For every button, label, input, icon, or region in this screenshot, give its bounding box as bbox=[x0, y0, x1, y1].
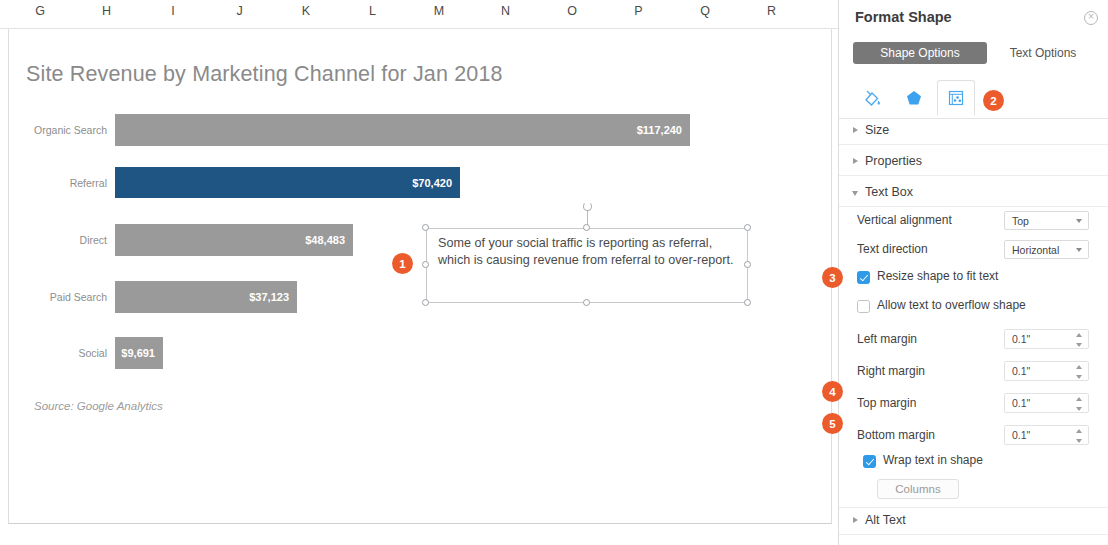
callout-badge-5: 5 bbox=[822, 413, 843, 434]
column-header-r[interactable]: R bbox=[752, 4, 792, 18]
resize-handle-ne[interactable] bbox=[744, 224, 751, 231]
left-margin-value: 0.1" bbox=[1012, 333, 1030, 345]
column-header-g[interactable]: G bbox=[20, 4, 60, 18]
bottom-margin-stepper[interactable]: 0.1" bbox=[1004, 425, 1089, 445]
right-margin-stepper[interactable]: 0.1" bbox=[1004, 361, 1089, 381]
section-text-box[interactable]: Text Box bbox=[839, 180, 1108, 207]
resize-handle-se[interactable] bbox=[744, 299, 751, 306]
resize-shape-checkbox[interactable] bbox=[857, 271, 870, 284]
callout-badge-4: 4 bbox=[822, 381, 843, 402]
annotation-textbox[interactable]: Some of your social traffic is reporting… bbox=[426, 228, 748, 303]
column-header-h[interactable]: H bbox=[87, 4, 127, 18]
spreadsheet-area: GHIJKLMNOPQR Site Revenue by Marketing C… bbox=[0, 0, 838, 545]
column-header-q[interactable]: Q bbox=[685, 4, 725, 18]
chevron-down-icon bbox=[852, 191, 858, 199]
allow-overflow-checkbox[interactable] bbox=[857, 300, 870, 313]
right-margin-value: 0.1" bbox=[1012, 365, 1030, 377]
resize-handle-nw[interactable] bbox=[422, 224, 429, 231]
section-size[interactable]: Size bbox=[839, 118, 1108, 145]
stepper-arrows[interactable] bbox=[1076, 332, 1083, 348]
panel-title: Format Shape bbox=[855, 9, 952, 25]
columns-button-label: Columns bbox=[878, 483, 958, 495]
text-direction-select[interactable]: Horizontal bbox=[1004, 240, 1089, 259]
chevron-right-icon bbox=[853, 517, 858, 523]
chevron-right-icon bbox=[853, 158, 858, 164]
stepper-arrows[interactable] bbox=[1076, 364, 1083, 380]
wrap-text-label: Wrap text in shape bbox=[883, 453, 983, 467]
panel-icon-tab-row bbox=[839, 78, 1108, 119]
callout-badge-2: 2 bbox=[983, 90, 1004, 111]
column-header-k[interactable]: K bbox=[286, 4, 326, 18]
resize-shape-label: Resize shape to fit text bbox=[877, 269, 998, 283]
wrap-text-checkbox[interactable] bbox=[863, 455, 876, 468]
left-margin-label: Left margin bbox=[857, 332, 917, 346]
column-header-l[interactable]: L bbox=[353, 4, 393, 18]
bottom-margin-label: Bottom margin bbox=[857, 428, 935, 442]
column-header-o[interactable]: O bbox=[552, 4, 592, 18]
panel-tabs: Shape Options Text Options bbox=[853, 42, 1095, 64]
top-margin-value: 0.1" bbox=[1012, 397, 1030, 409]
column-header-m[interactable]: M bbox=[419, 4, 459, 18]
text-direction-value: Horizontal bbox=[1012, 244, 1059, 256]
bottom-margin-value: 0.1" bbox=[1012, 429, 1030, 441]
fill-line-icon[interactable] bbox=[853, 80, 891, 116]
column-header-j[interactable]: J bbox=[220, 4, 260, 18]
resize-handle-sw[interactable] bbox=[422, 299, 429, 306]
column-header-row: GHIJKLMNOPQR bbox=[0, 0, 838, 29]
chevron-down-icon bbox=[1076, 248, 1082, 252]
text-direction-label: Text direction bbox=[857, 242, 928, 256]
format-shape-panel: Format Shape × Shape Options Text Option… bbox=[838, 0, 1108, 545]
size-properties-icon[interactable] bbox=[937, 80, 975, 116]
chart-source-note: Source: Google Analytics bbox=[34, 400, 163, 412]
resize-handle-s[interactable] bbox=[583, 299, 590, 306]
chevron-right-icon bbox=[853, 127, 858, 133]
excel-chart-format-shape-screen: GHIJKLMNOPQR Site Revenue by Marketing C… bbox=[0, 0, 1108, 545]
section-size-label: Size bbox=[865, 123, 889, 137]
columns-button[interactable]: Columns bbox=[877, 479, 959, 499]
callout-badge-3: 3 bbox=[822, 267, 843, 288]
top-margin-label: Top margin bbox=[857, 396, 916, 410]
column-header-i[interactable]: I bbox=[153, 4, 193, 18]
annotation-textbox-text: Some of your social traffic is reporting… bbox=[438, 235, 734, 268]
column-header-p[interactable]: P bbox=[619, 4, 659, 18]
section-alt-text[interactable]: Alt Text bbox=[839, 508, 1108, 535]
close-icon[interactable]: × bbox=[1084, 11, 1098, 25]
left-margin-stepper[interactable]: 0.1" bbox=[1004, 329, 1089, 349]
resize-handle-n[interactable] bbox=[583, 224, 590, 231]
chart-title: Site Revenue by Marketing Channel for Ja… bbox=[26, 62, 503, 87]
column-header-n[interactable]: N bbox=[486, 4, 526, 18]
section-properties-label: Properties bbox=[865, 154, 922, 168]
section-properties[interactable]: Properties bbox=[839, 149, 1108, 176]
stepper-arrows[interactable] bbox=[1076, 396, 1083, 412]
vertical-alignment-select[interactable]: Top bbox=[1004, 211, 1089, 230]
section-text-box-label: Text Box bbox=[865, 185, 913, 199]
tab-text-options[interactable]: Text Options bbox=[991, 42, 1095, 64]
allow-overflow-label: Allow text to overflow shape bbox=[877, 298, 1026, 312]
vertical-alignment-label: Vertical alignment bbox=[857, 213, 952, 227]
vertical-alignment-value: Top bbox=[1012, 215, 1029, 227]
resize-handle-w[interactable] bbox=[422, 261, 429, 268]
resize-handle-e[interactable] bbox=[744, 261, 751, 268]
section-alt-text-label: Alt Text bbox=[865, 513, 906, 527]
top-margin-stepper[interactable]: 0.1" bbox=[1004, 393, 1089, 413]
chevron-down-icon bbox=[1076, 219, 1082, 223]
right-margin-label: Right margin bbox=[857, 364, 925, 378]
callout-badge-1: 1 bbox=[392, 253, 413, 274]
effects-pentagon-icon[interactable] bbox=[895, 80, 933, 116]
tab-shape-options[interactable]: Shape Options bbox=[853, 42, 987, 64]
stepper-arrows[interactable] bbox=[1076, 428, 1083, 444]
rotation-handle-icon[interactable] bbox=[583, 202, 592, 211]
